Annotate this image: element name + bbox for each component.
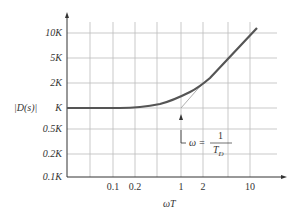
y-tick-5k: 5K: [22, 52, 62, 63]
x-axis-label: ωT: [163, 198, 176, 209]
y-tick-0-1k: 0.1K: [22, 171, 62, 182]
axes: [67, 16, 283, 177]
x-tick-2: 2: [191, 181, 215, 192]
annotation-numerator: 1: [218, 130, 223, 141]
y-axis-label: |D(s)|: [14, 102, 37, 113]
x-tick-1: 1: [169, 181, 193, 192]
x-tick-0-1: 0.1: [101, 181, 125, 192]
x-axis-arrow-icon: [281, 175, 287, 179]
annotation-arrow-icon: [179, 114, 183, 120]
annotation-den-sub: D: [219, 150, 224, 158]
y-tick-2k: 2K: [22, 77, 62, 88]
x-tick-10: 10: [238, 181, 262, 192]
annotation-lhs: ω =: [189, 137, 205, 148]
magnitude-curve: [67, 28, 257, 108]
y-tick-0-5k: 0.5K: [22, 123, 62, 134]
annotation-denominator: TD: [213, 144, 224, 158]
horizontal-grid: [67, 33, 277, 154]
x-tick-0-2: 0.2: [123, 181, 147, 192]
y-tick-10k: 10K: [22, 27, 62, 38]
y-axis-arrow-icon: [65, 12, 69, 18]
y-tick-0-2k: 0.2K: [22, 148, 62, 159]
